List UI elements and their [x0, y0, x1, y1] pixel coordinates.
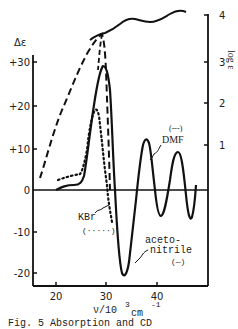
left-axis-label: Δε	[14, 37, 26, 48]
tick-label: 3	[219, 57, 225, 68]
kbr-label: KBr	[78, 212, 96, 223]
acetonitrile-legend: (—)	[171, 257, 185, 266]
tick-label: 0	[24, 185, 30, 196]
tick-label: 4	[219, 10, 225, 21]
x-tick-labels: 20 30 40	[50, 291, 164, 302]
tick-label: +30	[9, 57, 30, 68]
dmf-label: DMF	[162, 134, 184, 145]
dmf-curve-peak	[98, 34, 102, 70]
tick-label: -20	[14, 268, 30, 279]
kbr-arrow	[95, 205, 109, 213]
tick-label: 2	[219, 98, 225, 109]
left-tick-labels: +30 +20 +10 0 -10 -20	[9, 57, 30, 279]
dmf-legend: (---)	[169, 124, 183, 133]
acetonitrile-arrow	[135, 250, 148, 263]
dmf-curve	[40, 34, 110, 190]
x-label-sup: 3	[125, 300, 130, 309]
right-axis-label: log ε	[226, 50, 237, 69]
x-axis-label: ν/10 3 cm -1	[93, 300, 161, 319]
acetonitrile-annotation: aceto- nitrile (—)	[135, 235, 192, 266]
tick-label: +20	[9, 101, 30, 112]
tick-label: 1	[219, 140, 225, 151]
x-label-main: ν/10	[93, 305, 117, 316]
tick-label: 20	[50, 291, 63, 302]
tick-label: 30	[100, 291, 113, 302]
tick-label: -10	[14, 227, 30, 238]
x-label-unit-sup: -1	[151, 300, 161, 309]
acetonitrile-label-2: nitrile	[150, 245, 192, 256]
right-tick-labels: 4 3 2 1	[219, 10, 225, 151]
dmf-annotation: (---) DMF	[150, 124, 184, 160]
absorption-curve	[90, 11, 186, 40]
kbr-legend: (·····)	[82, 226, 116, 235]
tick-label: +10	[9, 144, 30, 155]
figure-caption: Fig. 5 Absorption and CD	[8, 318, 152, 329]
